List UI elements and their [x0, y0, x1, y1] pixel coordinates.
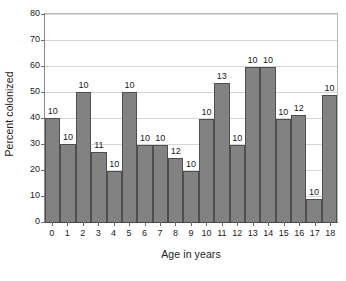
y-tick-label: 10	[18, 191, 40, 200]
x-tick-mark	[52, 222, 53, 226]
bar[interactable]	[245, 67, 260, 222]
y-axis-tick-labels: 01020304050607080	[18, 7, 40, 227]
y-tick-label: 60	[18, 61, 40, 70]
x-tick-cell	[261, 222, 276, 227]
y-tick-label: 30	[18, 139, 40, 148]
x-tick-cell	[276, 222, 291, 227]
x-tick-mark	[299, 222, 300, 226]
y-tick-label: 70	[18, 35, 40, 44]
bar-value-label: 10	[324, 84, 334, 93]
bar-value-label: 10	[63, 133, 73, 142]
bar-cell: 10	[76, 14, 91, 222]
bar[interactable]	[199, 119, 214, 222]
bar-chart-figure: Percent colonized 01020304050607080 1010…	[0, 0, 346, 281]
x-tick-label: 14	[261, 228, 276, 240]
x-tick-label: 0	[44, 228, 59, 240]
bar-value-label: 10	[309, 188, 319, 197]
y-tick-mark	[41, 14, 45, 15]
y-tick-mark	[41, 40, 45, 41]
y-axis-title: Percent colonized	[2, 3, 16, 225]
x-tick-mark	[237, 222, 238, 226]
x-tick-cell	[137, 222, 152, 227]
y-tick-label: 20	[18, 165, 40, 174]
bar[interactable]	[137, 145, 152, 222]
bar-cell: 10	[122, 14, 137, 222]
bar-value-label: 10	[109, 160, 119, 169]
y-tick-mark	[41, 196, 45, 197]
bar[interactable]	[107, 171, 122, 222]
bar[interactable]	[45, 118, 60, 222]
x-tick-cell	[121, 222, 136, 227]
bar[interactable]	[183, 171, 198, 222]
bar[interactable]	[153, 145, 168, 222]
bar[interactable]	[122, 92, 137, 222]
bar-cell: 10	[245, 14, 260, 222]
x-tick-mark	[67, 222, 68, 226]
x-axis-tick-labels: 0123456789101112131415161718	[44, 228, 338, 240]
y-tick-mark	[41, 170, 45, 171]
bar-value-label: 10	[201, 108, 211, 117]
bar-cell: 12	[168, 14, 183, 222]
bar[interactable]	[76, 92, 91, 222]
x-tick-cell	[59, 222, 74, 227]
x-tick-cell	[90, 222, 105, 227]
x-tick-cell	[152, 222, 167, 227]
bar[interactable]	[60, 144, 75, 222]
bar[interactable]	[306, 199, 321, 222]
x-tick-label: 7	[152, 228, 167, 240]
x-tick-label: 17	[307, 228, 322, 240]
bar[interactable]	[322, 95, 337, 222]
bar-value-label: 10	[278, 108, 288, 117]
bar-cell: 12	[291, 14, 306, 222]
x-tick-mark	[268, 222, 269, 226]
x-tick-mark	[145, 222, 146, 226]
bar-value-label: 10	[125, 81, 135, 90]
bar[interactable]	[276, 119, 291, 222]
y-tick-mark	[41, 66, 45, 67]
bar-cell: 10	[153, 14, 168, 222]
bar-cell: 10	[322, 14, 337, 222]
bar-cell: 10	[230, 14, 245, 222]
bar[interactable]	[230, 145, 245, 222]
bar-cell: 10	[260, 14, 275, 222]
y-tick-mark	[41, 92, 45, 93]
y-tick-label: 40	[18, 113, 40, 122]
x-tick-mark	[114, 222, 115, 226]
y-tick-label: 0	[18, 217, 40, 226]
bar-value-label: 10	[186, 160, 196, 169]
x-tick-label: 1	[59, 228, 74, 240]
bar-cell: 10	[306, 14, 321, 222]
bar[interactable]	[214, 83, 229, 222]
bar-cell: 10	[137, 14, 152, 222]
bar-cell: 10	[45, 14, 60, 222]
x-tick-label: 11	[214, 228, 229, 240]
x-tick-cell	[44, 222, 59, 227]
x-tick-label: 12	[230, 228, 245, 240]
x-tick-cell	[75, 222, 90, 227]
bar[interactable]	[291, 115, 306, 222]
bar[interactable]	[168, 158, 183, 222]
x-tick-mark	[191, 222, 192, 226]
x-tick-mark	[253, 222, 254, 226]
x-tick-mark	[284, 222, 285, 226]
x-tick-mark	[206, 222, 207, 226]
x-tick-mark	[222, 222, 223, 226]
x-tick-mark	[129, 222, 130, 226]
bar-cell: 10	[276, 14, 291, 222]
x-tick-mark	[315, 222, 316, 226]
bar-value-label: 10	[140, 134, 150, 143]
bar-value-label: 10	[248, 56, 258, 65]
x-tick-label: 15	[276, 228, 291, 240]
x-tick-label: 6	[137, 228, 152, 240]
x-tick-cell	[199, 222, 214, 227]
bar[interactable]	[260, 67, 275, 222]
bar-value-label: 12	[171, 147, 181, 156]
bar[interactable]	[91, 152, 106, 222]
x-tick-label: 8	[168, 228, 183, 240]
x-tick-cell	[292, 222, 307, 227]
bar-value-label: 10	[232, 134, 242, 143]
bar-cell: 10	[107, 14, 122, 222]
bar-value-label: 10	[263, 56, 273, 65]
x-tick-label: 10	[199, 228, 214, 240]
bar-cell: 13	[214, 14, 229, 222]
